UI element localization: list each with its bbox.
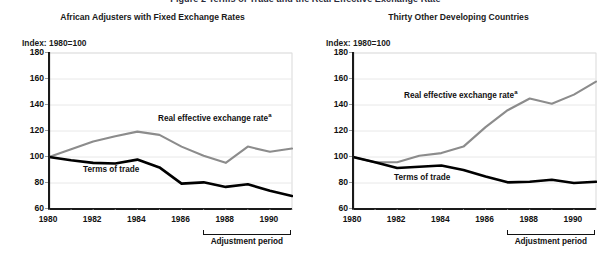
y-axis-tick-mark bbox=[349, 104, 353, 105]
series-label-terms-of-trade: Terms of trade bbox=[394, 173, 450, 182]
x-axis-tick-label: 1980 bbox=[31, 215, 65, 224]
x-axis-tick-label: 1990 bbox=[252, 215, 286, 224]
y-axis-tick-label: 80 bbox=[18, 178, 44, 187]
series-label-reer: Real effective exchange ratea bbox=[158, 112, 271, 123]
adjustment-period-bracket bbox=[507, 230, 595, 235]
adjustment-period-label: Adjustment period bbox=[203, 237, 291, 246]
figure-root: Figure 2 Terms of Trade and the Real Eff… bbox=[0, 0, 611, 260]
y-axis-tick-mark bbox=[349, 208, 353, 209]
y-axis-tick-mark bbox=[45, 208, 49, 209]
y-axis-tick-label: 60 bbox=[322, 204, 348, 213]
y-axis-tick-mark bbox=[45, 182, 49, 183]
y-axis-tick-mark bbox=[45, 130, 49, 131]
y-axis-tick-label: 140 bbox=[322, 100, 348, 109]
series-label-reer-text: Real effective exchange rate bbox=[404, 91, 514, 100]
y-axis-tick-label: 160 bbox=[322, 74, 348, 83]
x-axis-tick-label: 1982 bbox=[75, 215, 109, 224]
y-axis-tick-label: 80 bbox=[322, 178, 348, 187]
x-axis-tick-label: 1984 bbox=[119, 215, 153, 224]
x-axis-tick-label: 1990 bbox=[556, 215, 590, 224]
panel-title: African Adjusters with Fixed Exchange Ra… bbox=[0, 12, 305, 22]
y-axis-tick-mark bbox=[349, 156, 353, 157]
y-axis-tick-mark bbox=[349, 182, 353, 183]
y-axis-tick-mark bbox=[45, 156, 49, 157]
x-axis-tick-label: 1982 bbox=[379, 215, 413, 224]
y-axis-tick-mark bbox=[45, 52, 49, 53]
y-axis-tick-mark bbox=[349, 52, 353, 53]
x-axis-tick-label: 1988 bbox=[208, 215, 242, 224]
y-axis-tick-label: 180 bbox=[322, 48, 348, 57]
y-axis-tick-label: 160 bbox=[18, 74, 44, 83]
panel-title: Thirty Other Developing Countries bbox=[306, 12, 611, 22]
x-axis-tick-label: 1986 bbox=[164, 215, 198, 224]
y-axis-tick-label: 100 bbox=[18, 152, 44, 161]
y-axis-tick-mark bbox=[45, 78, 49, 79]
plot-area bbox=[48, 52, 291, 208]
x-axis-tick-label: 1986 bbox=[468, 215, 502, 224]
adjustment-period-label: Adjustment period bbox=[507, 237, 595, 246]
chart-panel-thirty-other-developing-countries: Thirty Other Developing Countries Index:… bbox=[306, 0, 611, 260]
y-axis-tick-label: 120 bbox=[18, 126, 44, 135]
x-axis-tick-label: 1988 bbox=[512, 215, 546, 224]
adjustment-period-bracket bbox=[203, 230, 291, 235]
plot-area bbox=[352, 52, 595, 208]
y-axis-tick-label: 180 bbox=[18, 48, 44, 57]
y-axis-tick-label: 140 bbox=[18, 100, 44, 109]
series-label-reer-text: Real effective exchange rate bbox=[158, 114, 268, 123]
x-axis-tick-label: 1980 bbox=[335, 215, 369, 224]
y-axis-tick-mark bbox=[349, 78, 353, 79]
y-axis-tick-label: 60 bbox=[18, 204, 44, 213]
y-axis-tick-mark bbox=[45, 104, 49, 105]
series-label-reer: Real effective exchange ratea bbox=[404, 89, 517, 100]
x-axis-tick-label: 1984 bbox=[423, 215, 457, 224]
chart-panel-african-adjusters: African Adjusters with Fixed Exchange Ra… bbox=[0, 0, 305, 260]
y-axis-tick-label: 120 bbox=[322, 126, 348, 135]
y-axis-tick-label: 100 bbox=[322, 152, 348, 161]
footnote-marker: a bbox=[268, 112, 271, 118]
footnote-marker: a bbox=[514, 89, 517, 95]
series-label-terms-of-trade: Terms of trade bbox=[83, 165, 139, 174]
y-axis-tick-mark bbox=[349, 130, 353, 131]
